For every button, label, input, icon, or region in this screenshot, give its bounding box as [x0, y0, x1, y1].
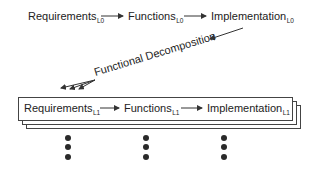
dot-icon — [221, 154, 227, 160]
arrow-decomposition-1 — [61, 80, 95, 88]
dot-icon — [65, 154, 71, 160]
dot-icon — [221, 135, 227, 141]
dot-icon — [221, 144, 227, 150]
arrow-impl-to-decomposition — [210, 28, 243, 39]
dot-icon — [65, 135, 71, 141]
dot-icon — [143, 144, 149, 150]
dot-icon — [143, 135, 149, 141]
dot-icon — [65, 144, 71, 150]
dot-icon — [143, 154, 149, 160]
arrows-layer — [0, 0, 315, 171]
